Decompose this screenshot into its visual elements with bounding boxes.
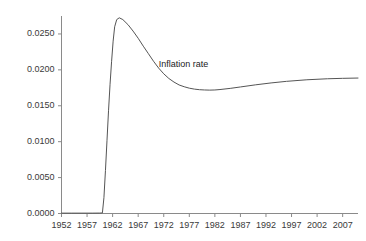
axis-lines [62, 16, 359, 214]
y-axis-tick-label: 0.0050 [27, 173, 55, 182]
y-axis-tick-label: 0.0200 [27, 65, 55, 74]
data-series-layer [62, 18, 359, 213]
series-line-inflation-rate [62, 18, 359, 213]
y-axis-tick-label: 0.0150 [27, 101, 55, 110]
y-axis-tick-label: 0.0100 [27, 137, 55, 146]
line-chart-plot [0, 0, 366, 241]
series-label-inflation-rate: Inflation rate [159, 60, 209, 69]
y-axis-tick-label: 0.0000 [27, 209, 55, 218]
y-axis-ticks [58, 34, 62, 214]
x-axis-tick-label: 2007 [323, 221, 363, 230]
x-axis-ticks [62, 214, 343, 218]
y-axis-tick-label: 0.0250 [27, 29, 55, 38]
chart-container: 0.00000.00500.01000.01500.02000.0250 195… [0, 0, 366, 241]
